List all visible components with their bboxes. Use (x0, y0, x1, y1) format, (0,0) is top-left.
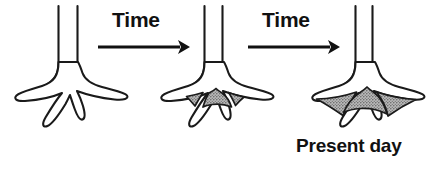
foot-stage-1 (15, 6, 127, 127)
time-arrow-2 (248, 40, 340, 54)
time-label-2: Time (262, 9, 310, 30)
foot-outline-stage-1 (15, 62, 127, 127)
foot-stage-3 (312, 6, 424, 127)
foot-stage-2 (161, 6, 273, 127)
time-label-1: Time (112, 9, 160, 30)
evolution-diagram: Time Time Present day (0, 0, 443, 171)
present-day-label: Present day (296, 136, 402, 155)
time-arrow-1 (98, 40, 190, 54)
